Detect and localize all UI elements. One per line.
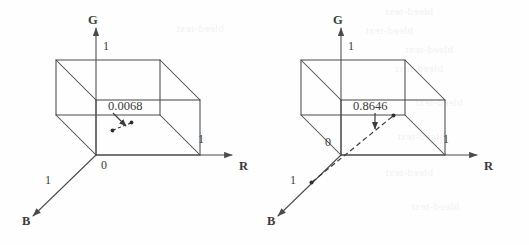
axis-label-b: B	[22, 215, 30, 228]
cube-edge-top-left	[56, 60, 96, 100]
cube-drawing-left	[0, 0, 264, 245]
axis-label-g: G	[88, 14, 98, 27]
annotation-endpoint-dot-end	[130, 121, 134, 125]
axis-tick-r: 1	[198, 133, 204, 145]
axis-label-b: B	[267, 215, 275, 228]
axis-tick-r: 1	[443, 133, 449, 145]
cube-drawing-right	[265, 0, 529, 245]
cube-edge-bottom-left	[56, 115, 96, 155]
rgb-cube-figure: bleed-text	[0, 0, 529, 245]
origin-label: 0	[325, 136, 331, 148]
cube-panel-left: bleed-text	[0, 0, 264, 245]
axis-line-b	[278, 155, 341, 216]
origin-label: 0	[101, 159, 107, 171]
annotation-endpoint-dot-end	[392, 114, 396, 118]
cube-edge-top-right	[160, 60, 200, 100]
annotation-value-label: 0.0068	[108, 100, 142, 113]
annotation-dashed-diagonal	[312, 116, 393, 182]
axis-tick-g: 1	[348, 40, 354, 52]
axis-tick-g: 1	[103, 40, 109, 52]
cube-edge-top-right	[405, 60, 445, 100]
axis-label-r: R	[239, 160, 248, 173]
annotation-value-label: 0.8646	[353, 100, 387, 113]
annotation-group-left	[111, 113, 134, 132]
axis-label-g: G	[333, 14, 343, 27]
axis-line-b	[33, 155, 96, 216]
cube-edge-top-left	[301, 60, 341, 100]
cube-edge-bottom-right	[160, 115, 200, 155]
annotation-endpoint-dot-start	[111, 129, 115, 133]
cube-panel-right: bleed-text bleed-text bleed-text bleed-t…	[265, 0, 529, 245]
axis-label-r: R	[484, 160, 493, 173]
axis-tick-b: 1	[45, 174, 51, 186]
annotation-group-right	[310, 113, 396, 185]
cube-edge-bottom-right	[405, 115, 445, 155]
annotation-endpoint-dot-start	[310, 181, 314, 185]
cube-edge-bottom-left	[301, 115, 341, 155]
annotation-dashed-vector	[113, 123, 131, 130]
axis-tick-b: 1	[290, 174, 296, 186]
